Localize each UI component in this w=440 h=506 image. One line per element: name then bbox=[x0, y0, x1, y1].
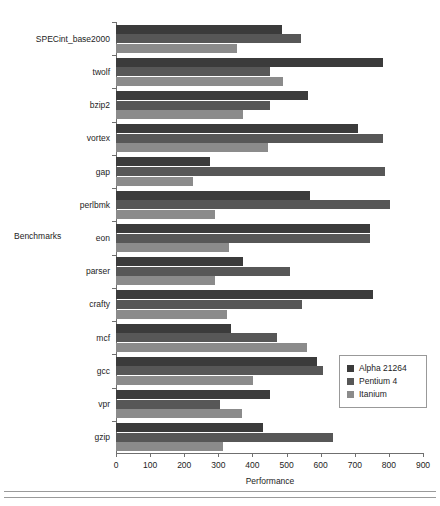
bar bbox=[116, 423, 263, 432]
bar bbox=[116, 191, 310, 200]
x-axis-tick bbox=[389, 453, 390, 457]
bar bbox=[116, 333, 277, 342]
y-axis-category-label: vpr bbox=[6, 399, 110, 409]
y-axis-tick bbox=[112, 421, 116, 422]
bar bbox=[116, 224, 370, 233]
legend-label: Pentium 4 bbox=[359, 377, 397, 386]
y-axis-category-label: perlbmk bbox=[6, 200, 110, 210]
x-axis-tick bbox=[150, 453, 151, 457]
x-axis-tick bbox=[287, 453, 288, 457]
bar bbox=[116, 200, 390, 209]
x-axis-tick-label: 700 bbox=[340, 460, 370, 470]
x-axis-tick bbox=[116, 453, 117, 457]
y-axis-tick bbox=[112, 354, 116, 355]
x-axis-tick bbox=[252, 453, 253, 457]
x-axis-tick bbox=[321, 453, 322, 457]
legend-swatch-icon bbox=[347, 391, 354, 398]
x-axis-tick bbox=[355, 453, 356, 457]
bar bbox=[116, 300, 302, 309]
bar bbox=[116, 67, 270, 76]
bar bbox=[116, 243, 229, 252]
x-axis-tick-label: 100 bbox=[135, 460, 165, 470]
y-axis-category-label: gap bbox=[6, 167, 110, 177]
y-axis-category-label: SPECint_base2000 bbox=[6, 34, 110, 44]
x-axis-tick-label: 300 bbox=[203, 460, 233, 470]
bar bbox=[116, 267, 290, 276]
y-axis-tick bbox=[112, 255, 116, 256]
x-axis-tick-label: 800 bbox=[374, 460, 404, 470]
legend-item: Pentium 4 bbox=[347, 375, 420, 388]
bar bbox=[116, 442, 223, 451]
bar bbox=[116, 324, 231, 333]
bar bbox=[116, 290, 373, 299]
y-axis-category-label: gcc bbox=[6, 366, 110, 376]
y-axis-tick bbox=[112, 221, 116, 222]
y-axis-tick bbox=[112, 288, 116, 289]
y-axis-tick bbox=[112, 55, 116, 56]
bar bbox=[116, 34, 301, 43]
x-axis-tick-label: 500 bbox=[272, 460, 302, 470]
bar bbox=[116, 177, 193, 186]
bar bbox=[116, 157, 210, 166]
y-axis-title: Benchmarks bbox=[14, 231, 61, 241]
x-axis-tick-label: 600 bbox=[306, 460, 336, 470]
x-axis-tick bbox=[423, 453, 424, 457]
legend-item: Alpha 21264 bbox=[347, 362, 420, 375]
bar bbox=[116, 433, 333, 442]
bar bbox=[116, 257, 243, 266]
bar bbox=[116, 101, 270, 110]
y-axis-tick bbox=[112, 155, 116, 156]
legend-item: Itanium bbox=[347, 388, 420, 401]
x-axis-tick bbox=[218, 453, 219, 457]
bar bbox=[116, 134, 383, 143]
page-divider-bottom bbox=[4, 497, 436, 498]
bar bbox=[116, 110, 243, 119]
bar bbox=[116, 143, 268, 152]
bar bbox=[116, 400, 220, 409]
bar bbox=[116, 210, 215, 219]
bar bbox=[116, 25, 282, 34]
page-divider-top bbox=[4, 491, 436, 492]
bar bbox=[116, 276, 215, 285]
legend-label: Alpha 21264 bbox=[359, 364, 407, 373]
y-axis-tick bbox=[112, 388, 116, 389]
y-axis-tick bbox=[112, 22, 116, 23]
y-axis-tick bbox=[112, 188, 116, 189]
bar bbox=[116, 124, 358, 133]
bar bbox=[116, 409, 242, 418]
bar bbox=[116, 77, 283, 86]
y-axis-category-label: parser bbox=[6, 266, 110, 276]
performance-bar-chart: SPECint_base2000twolfbzip2vortexgapperlb… bbox=[0, 0, 440, 506]
legend-swatch-icon bbox=[347, 378, 354, 385]
bar bbox=[116, 44, 237, 53]
y-axis-category-label: bzip2 bbox=[6, 100, 110, 110]
x-axis-title: Performance bbox=[116, 476, 424, 486]
x-axis-tick-label: 0 bbox=[101, 460, 131, 470]
y-axis-tick bbox=[112, 122, 116, 123]
bar bbox=[116, 357, 317, 366]
y-axis-category-label: vortex bbox=[6, 133, 110, 143]
legend-swatch-icon bbox=[347, 365, 354, 372]
x-axis-tick bbox=[184, 453, 185, 457]
y-axis-category-label: twolf bbox=[6, 67, 110, 77]
y-axis-tick bbox=[112, 321, 116, 322]
bar bbox=[116, 310, 227, 319]
bar bbox=[116, 167, 385, 176]
bar bbox=[116, 234, 370, 243]
x-axis-tick-label: 200 bbox=[169, 460, 199, 470]
bar bbox=[116, 376, 253, 385]
x-axis-tick-label: 400 bbox=[237, 460, 267, 470]
bar bbox=[116, 343, 307, 352]
y-axis-category-label: mcf bbox=[6, 333, 110, 343]
bar bbox=[116, 366, 323, 375]
x-axis-tick-label: 900 bbox=[408, 460, 438, 470]
bar bbox=[116, 390, 270, 399]
y-axis-category-label: gzip bbox=[6, 432, 110, 442]
y-axis-tick bbox=[112, 88, 116, 89]
y-axis-category-label: crafty bbox=[6, 299, 110, 309]
chart-legend: Alpha 21264Pentium 4Itanium bbox=[339, 355, 427, 408]
bar bbox=[116, 91, 308, 100]
bar bbox=[116, 58, 383, 67]
legend-label: Itanium bbox=[359, 390, 387, 399]
